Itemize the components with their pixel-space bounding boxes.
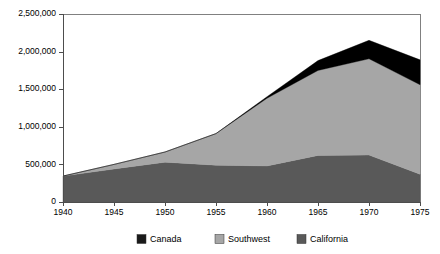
legend-label-canada: Canada xyxy=(150,234,182,244)
x-axis-tick-label: 1945 xyxy=(105,207,124,217)
y-axis-tick-label: 2,500,000 xyxy=(18,8,56,18)
x-axis-tick-label: 1970 xyxy=(360,207,379,217)
y-axis-tick-label: 2,000,000 xyxy=(18,46,56,56)
stacked-area-chart: 0500,0001,000,0001,500,0002,000,0002,500… xyxy=(0,0,440,254)
x-axis-tick-label: 1975 xyxy=(411,207,430,217)
x-axis-tick-label: 1965 xyxy=(309,207,328,217)
legend-swatch-southwest xyxy=(215,235,224,244)
y-axis-tick-label: 1,500,000 xyxy=(18,83,56,93)
chart-legend: CanadaSouthwestCalifornia xyxy=(137,234,348,244)
y-axis-tick-label: 0 xyxy=(51,196,56,206)
x-axis-tick-label: 1960 xyxy=(258,207,277,217)
x-axis-tick-label: 1940 xyxy=(54,207,73,217)
legend-swatch-california xyxy=(297,235,306,244)
y-axis-tick-label: 1,000,000 xyxy=(18,121,56,131)
y-axis-tick-label: 500,000 xyxy=(25,159,56,169)
x-axis-tick-label: 1950 xyxy=(156,207,175,217)
legend-label-southwest: Southwest xyxy=(228,234,271,244)
chart-container: 0500,0001,000,0001,500,0002,000,0002,500… xyxy=(0,0,440,254)
legend-swatch-canada xyxy=(137,235,146,244)
x-axis-tick-label: 1955 xyxy=(207,207,226,217)
legend-label-california: California xyxy=(310,234,348,244)
